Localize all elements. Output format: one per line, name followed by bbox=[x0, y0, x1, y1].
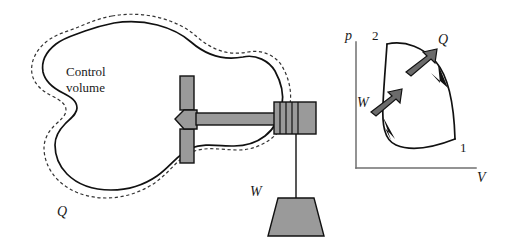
figure-root: Control volume Q bbox=[0, 0, 508, 242]
work-label-pv: W bbox=[357, 95, 370, 110]
p-axis-label: p bbox=[344, 28, 352, 43]
system-boundary-dashed bbox=[32, 14, 291, 198]
hanging-weight bbox=[268, 198, 324, 236]
shaft bbox=[196, 113, 276, 125]
heat-transfer-label: Q bbox=[57, 204, 67, 219]
heat-transfer-label-pv: Q bbox=[438, 32, 448, 47]
work-arrow bbox=[371, 89, 402, 116]
pressure-volume-diagram: p V 2 1 Q W bbox=[344, 28, 487, 185]
work-label-left: W bbox=[250, 184, 263, 199]
control-volume-label-line1: Control bbox=[66, 64, 106, 79]
system-boundary-solid bbox=[43, 22, 283, 190]
control-volume-label-line2: volume bbox=[66, 80, 105, 95]
control-volume-schematic: Control volume Q bbox=[32, 14, 324, 236]
v-axis-label: V bbox=[477, 170, 487, 185]
state-point-2-label: 2 bbox=[372, 28, 379, 43]
figure-canvas: Control volume Q bbox=[0, 0, 508, 242]
heat-transfer-arrow bbox=[406, 49, 437, 76]
paddle-wheel-lower-blade bbox=[180, 129, 194, 163]
paddle-wheel-hub bbox=[175, 110, 197, 129]
state-point-1-label: 1 bbox=[460, 140, 467, 155]
paddle-wheel-upper-blade bbox=[180, 76, 194, 110]
